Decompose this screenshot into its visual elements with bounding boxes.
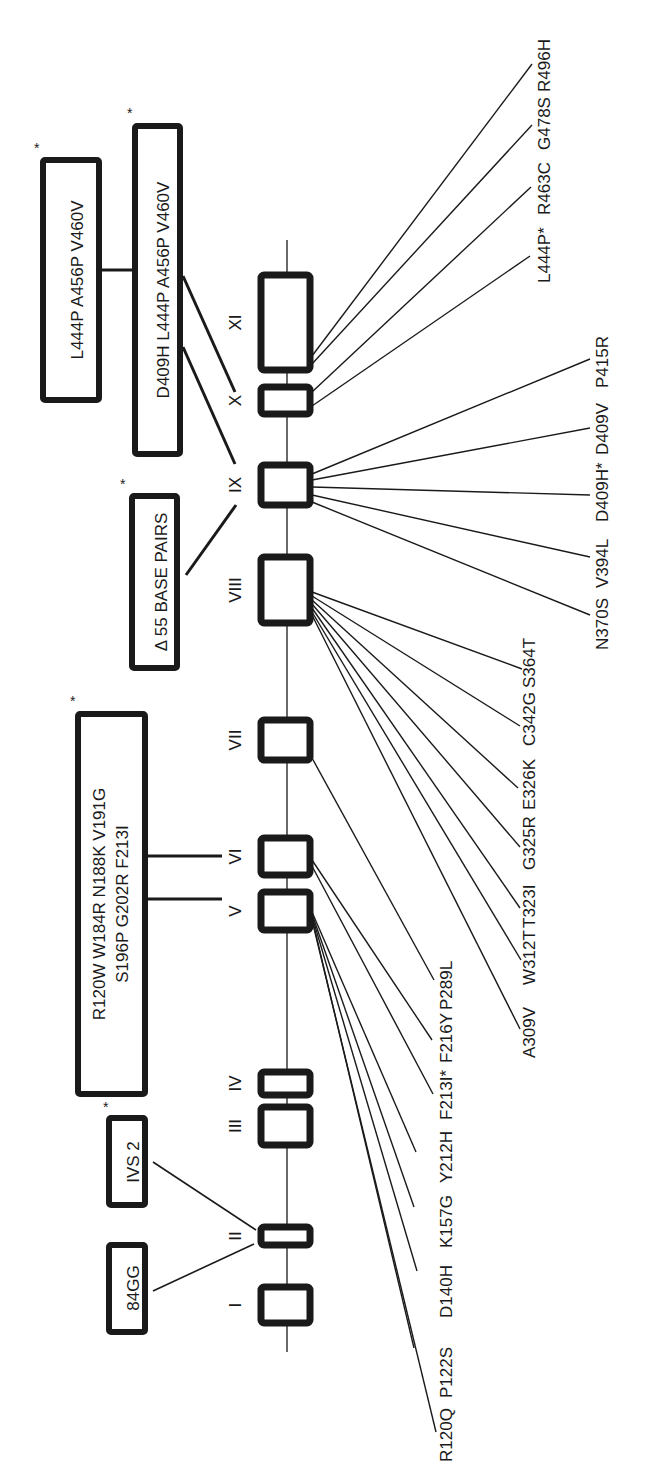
exon-label: X <box>226 395 245 406</box>
exon-box-vii <box>261 720 310 760</box>
mutation-label: D140H <box>437 1265 456 1318</box>
exon-label: VI <box>226 848 245 864</box>
allele-text-ivs2: IVS 2 <box>124 1141 143 1183</box>
exon-group <box>261 275 310 1323</box>
mutation-label: L444P* <box>535 227 554 283</box>
exon-box-x <box>261 387 310 414</box>
asterisk-marker: * <box>70 693 76 709</box>
allele-text-recnci-short: L444P A456P V460V <box>68 200 87 360</box>
exon-label: I <box>226 1303 245 1308</box>
mutation-label: F213I* <box>437 1070 456 1120</box>
exon-box-ii <box>261 1227 310 1245</box>
allele-box-exon5-6-complex <box>78 714 145 1094</box>
exon-label: II <box>226 1231 245 1240</box>
allele-text-del55: Δ 55 BASE PAIRS <box>152 513 171 652</box>
exon-box-xi <box>261 275 310 370</box>
diagram-canvas: R120QP122SD140HK157GY212HF213I*F216YP289… <box>0 0 648 1470</box>
mutation-label: R120Q <box>437 1408 456 1462</box>
allele-text-exon5-6-complex: R120W W184R N188K V191G <box>90 788 109 1020</box>
mutation-label: K157G <box>437 1195 456 1248</box>
exon-label: IV <box>226 1075 245 1092</box>
exon-label: V <box>226 905 245 917</box>
exon-label: III <box>226 1119 245 1133</box>
exon-box-iii <box>261 1107 310 1145</box>
mutation-label: E326K <box>520 758 539 810</box>
mutation-label: C342G <box>520 692 539 746</box>
mutation-label: W312T <box>520 930 539 985</box>
exon-box-v <box>261 892 310 930</box>
exon-box-iv <box>261 1072 310 1095</box>
mutation-label: D409V <box>593 402 612 455</box>
exon-label: IX <box>226 477 245 493</box>
mutation-label: Y212H <box>437 1131 456 1183</box>
exon-box-ix <box>261 465 310 505</box>
mutation-label: R463C <box>535 162 554 215</box>
mutation-label: R496H <box>535 39 554 92</box>
mutation-label: D409H* <box>593 462 612 522</box>
mutation-label: G325R <box>520 816 539 870</box>
exon-label: VIII <box>226 577 245 603</box>
mutation-label: P122S <box>437 1347 456 1398</box>
gene-mutation-diagram: R120QP122SD140HK157GY212HF213I*F216YP289… <box>0 0 648 1470</box>
mutation-label: P415R <box>593 336 612 388</box>
mutation-label: V394L <box>593 539 612 588</box>
allele-text-exon5-6-complex: S196P G202R F213I <box>113 825 132 983</box>
exon-label: VII <box>226 730 245 751</box>
allele-text-recnci: D409H L444P A456P V460V <box>154 181 173 398</box>
allele-text-84gg: 84GG <box>124 1265 143 1310</box>
asterisk-marker: * <box>34 140 40 156</box>
mutation-labels: R120QP122SD140HK157GY212HF213I*F216YP289… <box>437 39 612 1462</box>
mutation-label: S364T <box>520 638 539 688</box>
mutation-label: P289L <box>437 961 456 1010</box>
asterisk-marker: * <box>103 1099 109 1115</box>
mutation-label: G478S <box>535 97 554 150</box>
exon-box-i <box>261 1287 310 1323</box>
exon-label: XI <box>226 314 245 330</box>
asterisk-marker: * <box>120 476 126 492</box>
asterisk-marker: * <box>127 105 133 121</box>
mutation-label: T323I <box>520 885 539 928</box>
mutation-label: A309V <box>520 1006 539 1058</box>
mutation-label: N370S <box>593 598 612 650</box>
exon-box-viii <box>261 557 310 623</box>
mutation-label: F216Y <box>437 1013 456 1063</box>
exon-box-vi <box>261 838 310 875</box>
